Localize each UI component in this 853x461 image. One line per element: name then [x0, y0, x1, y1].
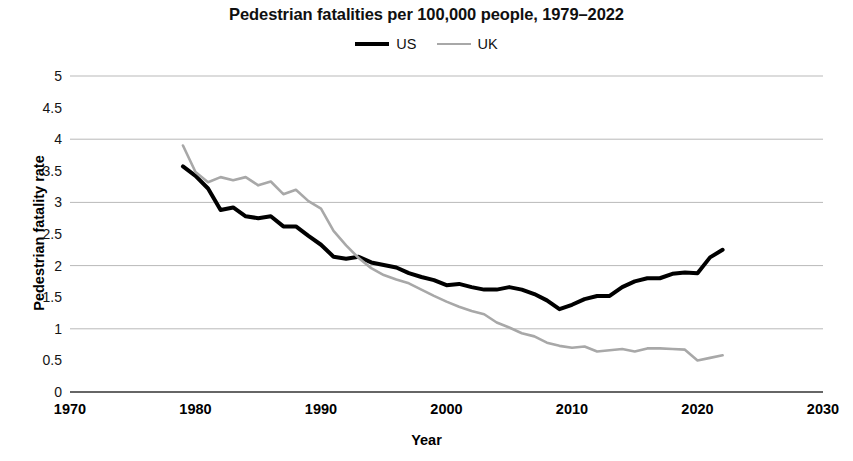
plot-area — [0, 0, 853, 461]
series-line-us — [183, 166, 723, 309]
chart-container: Pedestrian fatalities per 100,000 people… — [0, 0, 853, 461]
data-series-group — [183, 146, 723, 361]
series-line-uk — [183, 146, 723, 361]
gridlines — [70, 76, 823, 329]
